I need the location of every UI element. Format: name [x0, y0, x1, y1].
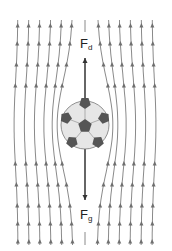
streamline: [119, 20, 126, 245]
flow-arrowhead-icon: [153, 161, 157, 166]
flow-arrowhead-icon: [98, 41, 102, 46]
flow-arrowhead-icon: [56, 182, 60, 187]
flow-arrowhead-icon: [58, 41, 62, 46]
flow-arrowhead-icon: [53, 161, 57, 166]
flow-arrowhead-icon: [27, 23, 31, 28]
flow-arrowhead-icon: [118, 23, 122, 28]
flow-arrowhead-icon: [113, 161, 117, 166]
flow-arrowhead-icon: [108, 41, 112, 46]
flow-arrowhead-icon: [48, 41, 52, 46]
flow-arrowhead-icon: [152, 182, 156, 187]
streamline: [152, 20, 156, 245]
flow-arrowhead-icon: [130, 182, 134, 187]
flow-arrowhead-icon: [120, 62, 124, 67]
flow-arrowhead-icon: [48, 203, 52, 208]
flow-arrowhead-icon: [102, 62, 106, 67]
flow-arrowhead-icon: [25, 62, 29, 67]
gravity-force-label: Fg: [80, 208, 92, 223]
flow-arrowhead-icon: [118, 203, 122, 208]
flow-arrowhead-icon: [96, 239, 100, 244]
flow-arrowhead-icon: [38, 23, 42, 28]
flow-arrowhead-icon: [106, 161, 110, 166]
flow-arrowhead-icon: [48, 23, 52, 28]
flow-arrowhead-icon: [48, 221, 52, 226]
flow-arrowhead-icon: [60, 83, 64, 88]
flow-arrowhead-icon: [44, 161, 48, 166]
flow-arrowhead-icon: [102, 182, 106, 187]
flow-arrowhead-icon: [53, 83, 57, 88]
flow-arrowhead-icon: [44, 83, 48, 88]
flow-arrowhead-icon: [120, 182, 124, 187]
flow-arrowhead-icon: [24, 83, 28, 88]
flow-arrowhead-icon: [113, 83, 117, 88]
flow-arrowhead-icon: [96, 221, 100, 226]
flow-arrowhead-icon: [34, 161, 38, 166]
flow-arrowhead-icon: [26, 41, 30, 46]
flow-arrowhead-icon: [60, 161, 64, 166]
streamline: [24, 20, 29, 245]
flow-arrowhead-icon: [108, 203, 112, 208]
gravity-force-subscript: g: [88, 214, 92, 223]
flow-arrowhead-icon: [107, 221, 111, 226]
flow-arrowhead-icon: [117, 239, 121, 244]
flow-arrowhead-icon: [152, 62, 156, 67]
flow-arrowhead-icon: [107, 23, 111, 28]
flow-arrowhead-icon: [98, 203, 102, 208]
flow-arrowhead-icon: [122, 83, 126, 88]
flow-arrowhead-icon: [46, 182, 50, 187]
flow-arrowhead-icon: [26, 203, 30, 208]
soccer-ball-icon: [61, 98, 109, 149]
streamline: [44, 20, 51, 245]
flow-arrowhead-icon: [110, 62, 114, 67]
flow-arrowhead-icon: [70, 23, 74, 28]
drag-force-label: Fd: [80, 37, 92, 52]
flow-arrowhead-icon: [153, 83, 157, 88]
flow-arrowhead-icon: [118, 221, 122, 226]
streamline: [141, 20, 146, 245]
flow-arrowhead-icon: [38, 221, 42, 226]
flow-arrowhead-icon: [129, 203, 133, 208]
streamline: [14, 20, 18, 245]
flow-arrowhead-icon: [140, 203, 144, 208]
flow-arrowhead-icon: [132, 161, 136, 166]
flow-arrowhead-icon: [56, 62, 60, 67]
flow-arrowhead-icon: [128, 221, 132, 226]
flow-arrowhead-icon: [16, 23, 20, 28]
gravity-force-symbol: F: [80, 207, 88, 222]
flow-arrowhead-icon: [106, 239, 110, 244]
flow-arrowhead-icon: [13, 83, 17, 88]
flow-arrowhead-icon: [15, 203, 19, 208]
flow-arrowhead-icon: [132, 83, 136, 88]
flow-arrowhead-icon: [27, 221, 31, 226]
flow-arrowhead-icon: [36, 62, 40, 67]
flow-arrowhead-icon: [59, 23, 63, 28]
flow-arrowhead-icon: [151, 203, 155, 208]
flow-arrowhead-icon: [128, 23, 132, 28]
flow-arrowhead-icon: [15, 41, 19, 46]
flow-arrowhead-icon: [139, 239, 143, 244]
flow-arrowhead-icon: [27, 239, 31, 244]
flow-arrowhead-icon: [68, 41, 72, 46]
flow-diagram: Fd Fg: [0, 0, 172, 251]
flow-arrowhead-icon: [38, 239, 42, 244]
flow-arrowhead-icon: [25, 182, 29, 187]
flow-arrowhead-icon: [96, 23, 100, 28]
flow-arrowhead-icon: [142, 83, 146, 88]
flow-arrowhead-icon: [139, 221, 143, 226]
flow-arrowhead-icon: [106, 83, 110, 88]
streamline: [34, 20, 39, 245]
flow-arrowhead-icon: [59, 221, 63, 226]
flow-arrowhead-icon: [110, 182, 114, 187]
flow-arrowhead-icon: [140, 41, 144, 46]
flow-arrowhead-icon: [24, 161, 28, 166]
flow-arrowhead-icon: [64, 182, 68, 187]
flow-arrowhead-icon: [139, 23, 143, 28]
flow-arrowhead-icon: [34, 83, 38, 88]
flow-arrowhead-icon: [150, 239, 154, 244]
flow-arrowhead-icon: [13, 161, 17, 166]
flow-arrowhead-icon: [70, 221, 74, 226]
flow-arrowhead-icon: [36, 182, 40, 187]
flow-arrowhead-icon: [14, 62, 18, 67]
flow-arrowhead-icon: [150, 221, 154, 226]
drag-force-arrow-head-icon: [83, 58, 88, 63]
